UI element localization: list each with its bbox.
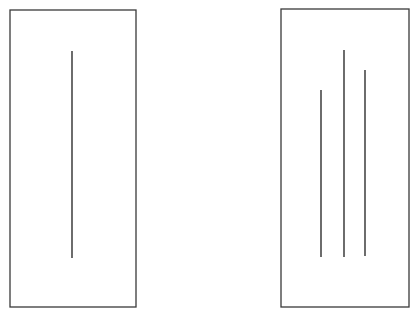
line-comparison-diagram — [0, 0, 410, 315]
reference-card — [10, 10, 136, 307]
comparison-card-border — [281, 9, 409, 307]
comparison-card — [281, 9, 409, 307]
reference-card-border — [10, 10, 136, 307]
